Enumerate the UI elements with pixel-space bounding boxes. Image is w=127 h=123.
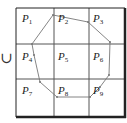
cell-label-p5: P5	[58, 50, 68, 66]
cell-label-p1: P1	[22, 12, 32, 28]
cell-label-p3: P3	[93, 12, 103, 28]
cell-label-p2: P2	[58, 12, 68, 28]
cell-label-p9: P9	[93, 84, 103, 100]
polygon-vertex	[33, 54, 35, 56]
cell-label-p4: P4	[22, 50, 32, 66]
polygon-vertex	[31, 43, 33, 45]
cell-label-p8: P8	[58, 84, 68, 100]
polygon-vertex	[52, 14, 54, 16]
polygon-vertex	[87, 21, 89, 23]
cell-label-p6: P6	[93, 50, 103, 66]
cell-label-p7: P7	[22, 84, 32, 100]
polygon-vertex	[109, 41, 111, 43]
polygon-vertex	[39, 81, 41, 83]
polygon-vertex	[108, 74, 110, 76]
partition-diagram: ∪ P1P2P3P4P5P6P7P8P9	[0, 0, 127, 123]
polygon-vertex	[89, 96, 91, 98]
